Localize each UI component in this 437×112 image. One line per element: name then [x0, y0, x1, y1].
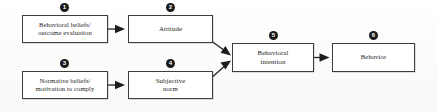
arrow-beliefs-to-attitude — [108, 25, 125, 33]
arrow-normative-to-subjective — [108, 81, 125, 89]
diagram-canvas: 1 Behavioral beliefs/ outcome evaluation… — [0, 0, 437, 112]
node-marker-4: 4 — [166, 59, 175, 68]
arrow-intention-to-behavior — [314, 53, 330, 61]
node-behavior[interactable]: Behavior — [332, 43, 415, 72]
node-behavioral-beliefs-label: Behavioral beliefs/ outcome evaluation — [36, 21, 94, 37]
node-marker-2: 2 — [166, 3, 175, 12]
node-marker-3: 3 — [60, 59, 69, 68]
node-marker-1: 1 — [60, 3, 69, 12]
node-behavioral-intention-label: Behavioral intention — [256, 49, 291, 65]
node-attitude-label: Attitude — [157, 25, 184, 33]
node-normative-beliefs[interactable]: Normative beliefs/ motivation to comply — [22, 71, 108, 99]
node-normative-beliefs-label: Normative beliefs/ motivation to comply — [34, 77, 97, 93]
node-subjective-norm[interactable]: Subjective norm — [128, 71, 213, 99]
node-behavioral-beliefs[interactable]: Behavioral beliefs/ outcome evaluation — [22, 15, 108, 43]
node-marker-5: 5 — [269, 31, 278, 40]
node-attitude[interactable]: Attitude — [128, 15, 213, 43]
node-marker-6: 6 — [369, 31, 378, 40]
arrow-subjective-to-intention — [210, 61, 231, 80]
node-behavior-label: Behavior — [359, 53, 389, 61]
node-subjective-norm-label: Subjective norm — [154, 77, 188, 93]
node-behavioral-intention[interactable]: Behavioral intention — [232, 43, 314, 72]
arrow-attitude-to-intention — [210, 40, 231, 56]
